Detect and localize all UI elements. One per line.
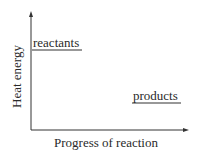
reactants-label: reactants	[33, 36, 79, 49]
y-axis-label: Heat energy	[10, 45, 23, 108]
x-axis-arrowhead-icon	[183, 128, 189, 132]
energy-diagram-canvas	[0, 0, 199, 156]
x-axis-label: Progress of reaction	[54, 136, 158, 149]
products-label: products	[133, 89, 178, 102]
y-axis-arrowhead-icon	[29, 11, 33, 17]
